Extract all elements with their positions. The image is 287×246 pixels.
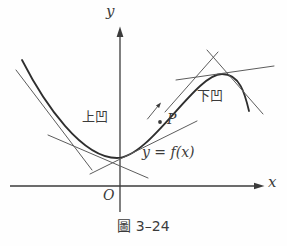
y-axis-label: y (106, 3, 114, 20)
tangent-line-left-upper (16, 70, 92, 170)
point-p-label: P (167, 112, 176, 127)
curve-equation-label: y = f(x) (142, 145, 195, 160)
diagram-canvas (0, 0, 287, 246)
origin-label: O (103, 188, 114, 203)
tangent-line-left-lower (48, 135, 148, 178)
x-axis-arrow-icon (254, 183, 265, 190)
x-axis-label: x (268, 174, 276, 191)
point-p-dot (158, 120, 162, 124)
tangent-line-right-descending (207, 50, 263, 114)
concave-down-label: 下凹 (197, 89, 223, 103)
tangent-line-peak (176, 66, 274, 80)
concave-up-label: 上凹 (82, 110, 108, 124)
figure-3-24: y x O 上凹 下凹 y = f(x) P 圖 3–24 (0, 0, 287, 246)
figure-caption: 圖 3–24 (0, 219, 287, 234)
y-axis-arrow-icon (117, 27, 124, 38)
direction-arrow-shaft (148, 105, 159, 119)
